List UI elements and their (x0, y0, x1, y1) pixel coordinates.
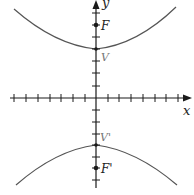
vertex-lower-point (94, 143, 98, 147)
y-axis (92, 0, 100, 188)
x-axis-label: x (183, 103, 191, 118)
y-axis-arrow-icon (93, 0, 100, 9)
focus-upper-label: F (100, 19, 110, 33)
vertex-lower-label: V' (100, 131, 111, 144)
focus-lower-point (94, 166, 99, 171)
x-axis (10, 94, 192, 102)
focus-upper-point (94, 23, 99, 28)
vertex-upper-label: V (101, 51, 110, 64)
x-axis-arrow-icon (183, 95, 192, 102)
hyperbola-diagram: y x F V V' F' (0, 0, 194, 195)
focus-lower-label: F' (100, 162, 113, 176)
vertex-upper-point (94, 47, 98, 51)
y-axis-label: y (101, 0, 110, 10)
